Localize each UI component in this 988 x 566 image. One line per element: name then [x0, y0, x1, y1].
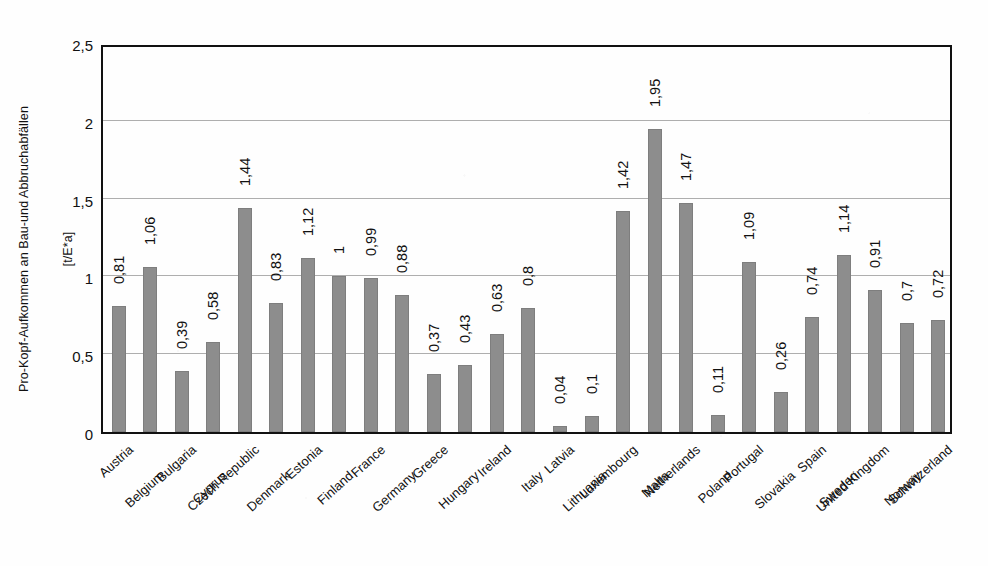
bar-value-label: 0,39 [174, 321, 190, 349]
bar[interactable] [364, 278, 378, 432]
bar-value-label: 0,63 [489, 284, 505, 312]
bar-slot[interactable]: 0,7 [891, 47, 923, 432]
y-axis-tick-labels: 00,511,522,5 [41, 45, 93, 434]
bar-slot[interactable]: 1 [324, 47, 356, 432]
bar-value-label: 0,04 [552, 376, 568, 404]
bar-value-label: 0,91 [867, 240, 883, 268]
bar[interactable] [206, 342, 220, 432]
bar[interactable] [837, 255, 851, 432]
bar-slot[interactable]: 0,83 [261, 47, 293, 432]
bar-slot[interactable]: 1,14 [828, 47, 860, 432]
bar-slot[interactable]: 0,58 [198, 47, 230, 432]
bar-value-label: 0,1 [584, 374, 600, 394]
chart-canvas: Pro-Kopf-Aufkommen an Bau-und Abbruchabf… [0, 0, 988, 566]
bar[interactable] [143, 267, 157, 432]
bar[interactable] [742, 262, 756, 432]
bar-value-label: 0,58 [205, 292, 221, 320]
bar-slot[interactable]: 0,81 [103, 47, 135, 432]
bar-slot[interactable]: 1,06 [135, 47, 167, 432]
bar-slot[interactable]: 1,44 [229, 47, 261, 432]
y-tick-label: 0,5 [47, 348, 93, 365]
bar-slot[interactable]: 0,74 [796, 47, 828, 432]
bar-value-label: 0,81 [111, 256, 127, 284]
bar[interactable] [774, 392, 788, 432]
bar-slot[interactable]: 1,95 [639, 47, 671, 432]
bar[interactable] [679, 203, 693, 432]
bar-slot[interactable]: 1,42 [607, 47, 639, 432]
bar-value-label: 1,09 [741, 212, 757, 240]
bar-slot[interactable]: 0,43 [450, 47, 482, 432]
bar[interactable] [490, 334, 504, 432]
bar-value-label: 0,88 [394, 245, 410, 273]
y-axis-title-line1: Pro-Kopf-Aufkommen an Bau-und Abbruchabf… [17, 59, 32, 439]
bar-value-label: 0,72 [930, 270, 946, 298]
bar[interactable] [175, 371, 189, 432]
bar-slot[interactable]: 0,37 [418, 47, 450, 432]
bar[interactable] [553, 426, 567, 432]
bar[interactable] [805, 317, 819, 432]
bar[interactable] [112, 306, 126, 432]
bar-value-label: 1,14 [836, 204, 852, 232]
bar[interactable] [521, 308, 535, 432]
bar-slot[interactable]: 0,72 [922, 47, 954, 432]
bar[interactable] [458, 365, 472, 432]
bar-value-label: 1,47 [678, 153, 694, 181]
y-tick-label: 0 [47, 426, 93, 443]
bar[interactable] [332, 276, 346, 432]
bar-value-label: 0,8 [520, 265, 536, 285]
bar[interactable] [616, 211, 630, 432]
bar-value-label: 0,7 [899, 281, 915, 301]
bar[interactable] [585, 416, 599, 432]
bar-value-label: 0,74 [804, 267, 820, 295]
bar[interactable] [301, 258, 315, 432]
bar[interactable] [395, 295, 409, 432]
x-axis-tick-labels: AustriaBelgiumBulgariaCyprusCzech Republ… [101, 436, 952, 566]
bar-value-label: 0,99 [363, 228, 379, 256]
bar-series: 0,811,060,390,581,440,831,1210,990,880,3… [103, 47, 950, 432]
y-tick-label: 2,5 [47, 37, 93, 54]
bar-slot[interactable]: 0,26 [765, 47, 797, 432]
bar-value-label: 1,42 [615, 161, 631, 189]
bar[interactable] [269, 303, 283, 432]
y-tick-label: 1,5 [47, 192, 93, 209]
bar-slot[interactable]: 0,39 [166, 47, 198, 432]
bar-value-label: 1,95 [647, 78, 663, 106]
y-tick-label: 2 [47, 114, 93, 131]
bar-slot[interactable]: 0,88 [387, 47, 419, 432]
bar-slot[interactable]: 0,1 [576, 47, 608, 432]
bar-value-label: 0,37 [426, 324, 442, 352]
bar[interactable] [868, 290, 882, 432]
bar[interactable] [711, 415, 725, 432]
bar-value-label: 0,26 [773, 341, 789, 369]
bar-value-label: 0,83 [268, 253, 284, 281]
bar-slot[interactable]: 1,12 [292, 47, 324, 432]
bar-slot[interactable]: 0,91 [859, 47, 891, 432]
bar-slot[interactable]: 0,11 [702, 47, 734, 432]
bar-slot[interactable]: 1,47 [670, 47, 702, 432]
bar-value-label: 1,12 [300, 208, 316, 236]
bar-value-label: 0,43 [457, 315, 473, 343]
bar[interactable] [931, 320, 945, 432]
bar-value-label: 0,11 [710, 366, 726, 393]
bar-slot[interactable]: 1,09 [733, 47, 765, 432]
bar[interactable] [900, 323, 914, 432]
bar-slot[interactable]: 0,99 [355, 47, 387, 432]
bar[interactable] [648, 129, 662, 432]
plot-area: 0,811,060,390,581,440,831,1210,990,880,3… [101, 45, 952, 434]
bar-slot[interactable]: 0,63 [481, 47, 513, 432]
bar-value-label: 1 [331, 246, 347, 254]
bar-value-label: 1,06 [142, 217, 158, 245]
bar[interactable] [238, 208, 252, 432]
bar-slot[interactable]: 0,04 [544, 47, 576, 432]
bar[interactable] [427, 374, 441, 432]
y-tick-label: 1 [47, 270, 93, 287]
bar-value-label: 1,44 [237, 158, 253, 186]
bar-slot[interactable]: 0,8 [513, 47, 545, 432]
